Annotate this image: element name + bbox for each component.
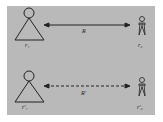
label-r1-prime: r'₁ — [22, 104, 28, 110]
relation-arrow-bottom — [44, 84, 130, 88]
label-r2: r₂ — [138, 42, 142, 48]
relation-arrow-top — [44, 23, 130, 27]
label-relation-r: R — [82, 28, 86, 34]
small-figure-icon-bottom — [138, 78, 146, 97]
label-relation-r-prime: R' — [81, 90, 86, 96]
small-figure-icon-top — [138, 17, 146, 36]
large-figure-icon-bottom — [15, 71, 44, 102]
label-r1: r₁ — [25, 42, 29, 48]
large-figure-icon-top — [15, 8, 44, 40]
label-r2-prime: r'₂ — [137, 104, 143, 110]
